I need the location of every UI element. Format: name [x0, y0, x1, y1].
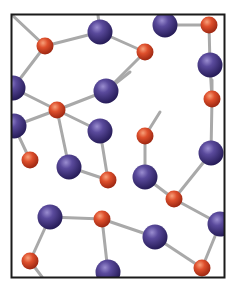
large-atom-purple	[143, 225, 168, 250]
small-atom-orange	[204, 91, 221, 108]
large-atom-purple	[133, 165, 158, 190]
large-atom-purple	[88, 119, 113, 144]
large-atom-purple	[88, 20, 113, 45]
small-atom-orange	[137, 44, 154, 61]
large-atom-purple	[38, 205, 63, 230]
small-atom-orange	[201, 17, 218, 34]
large-atom-purple	[57, 155, 82, 180]
large-atom-purple	[96, 260, 121, 285]
small-atom-orange	[37, 38, 54, 55]
large-atom-purple	[1, 76, 26, 101]
small-atom-orange	[94, 211, 111, 228]
small-atom-orange	[194, 260, 211, 277]
small-atom-orange	[22, 253, 39, 270]
large-atom-purple	[153, 13, 178, 38]
small-atom-orange	[49, 102, 66, 119]
atoms-layer	[1, 13, 233, 285]
molecular-structure-diagram	[0, 0, 239, 285]
large-atom-purple	[199, 141, 224, 166]
small-atom-orange	[166, 191, 183, 208]
large-atom-purple	[2, 114, 27, 139]
large-atom-purple	[94, 79, 119, 104]
large-atom-purple	[208, 212, 233, 237]
large-atom-purple	[198, 53, 223, 78]
small-atom-orange	[100, 172, 117, 189]
small-atom-orange	[137, 128, 154, 145]
small-atom-orange	[22, 152, 39, 169]
